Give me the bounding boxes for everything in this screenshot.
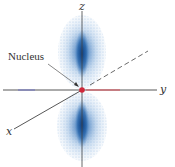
- y-axis-label: y: [159, 83, 167, 96]
- x-axis-label: x: [6, 125, 13, 138]
- orbital-figure: z y x Nucleus: [0, 0, 175, 167]
- orbital-diagram: z y x Nucleus: [0, 0, 175, 167]
- nucleus-label: Nucleus: [8, 50, 44, 62]
- z-axis-label: z: [78, 0, 85, 13]
- nucleus: [79, 87, 85, 93]
